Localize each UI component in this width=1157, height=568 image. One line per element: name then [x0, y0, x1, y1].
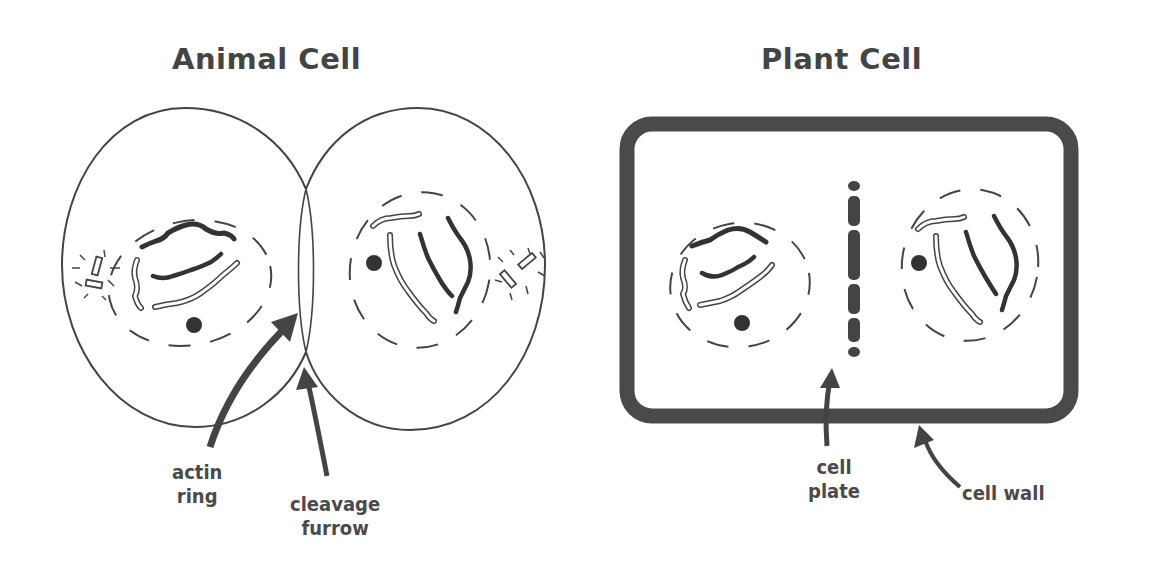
cleavage-furrow-arrow[interactable] [307, 378, 327, 476]
cell-wall-label-text: cell wall [962, 481, 1045, 505]
right-nuclear-envelope [338, 181, 503, 359]
left-nucleolus [186, 317, 202, 333]
left-chromosome-dark-1 [142, 224, 234, 247]
right-chromosome-dark-1 [420, 234, 452, 296]
cell-wall-label: cell wall [962, 481, 1045, 505]
plant-right-nucleolus [911, 255, 927, 271]
cell-plate-label-line-2: plate [808, 479, 860, 503]
cleavage-furrow-label-line-2: furrow [290, 516, 380, 540]
plant-right-chromosome-dark-1 [966, 232, 996, 294]
cleavage-furrow-label: cleavage furrow [290, 492, 380, 540]
cell-plate-label: cell plate [808, 455, 860, 503]
plant-left-chromosome-light-1-inner [700, 265, 772, 305]
plant-cell-diagram [627, 124, 1071, 487]
left-nuclear-envelope [97, 205, 283, 360]
cell-plate-label-line-1: cell [808, 455, 860, 479]
plant-right-chromosome-dark-2 [994, 216, 1017, 310]
right-daughter-cell-membrane [306, 108, 545, 430]
actin-ring-label: actin ring [172, 460, 222, 508]
actin-ring-label-line-1: actin [172, 460, 222, 484]
cell-wall-arrowhead [914, 425, 934, 448]
cell-plate[interactable] [848, 181, 860, 357]
actin-ring-arrow[interactable] [210, 323, 290, 447]
left-centriole-pair [72, 250, 120, 300]
plant-left-nucleolus [734, 315, 750, 331]
cleavage-constriction [299, 189, 314, 352]
cell-wall-arrow[interactable] [925, 440, 960, 487]
right-nucleolus [366, 255, 382, 271]
right-centriole-pair [495, 248, 545, 300]
plant-left-chromosome-light-1 [700, 265, 772, 305]
cleavage-furrow-label-line-1: cleavage [290, 492, 380, 516]
cell-plate-arrowhead [820, 368, 840, 388]
plant-left-chromosome-dark-2 [702, 257, 754, 277]
plant-left-chromosome-dark-1 [692, 228, 766, 246]
left-chromosome-dark-2 [153, 254, 221, 278]
right-chromosome-light-2 [390, 235, 434, 321]
animal-cell-diagram [62, 108, 545, 476]
actin-ring-label-line-2: ring [172, 484, 222, 508]
